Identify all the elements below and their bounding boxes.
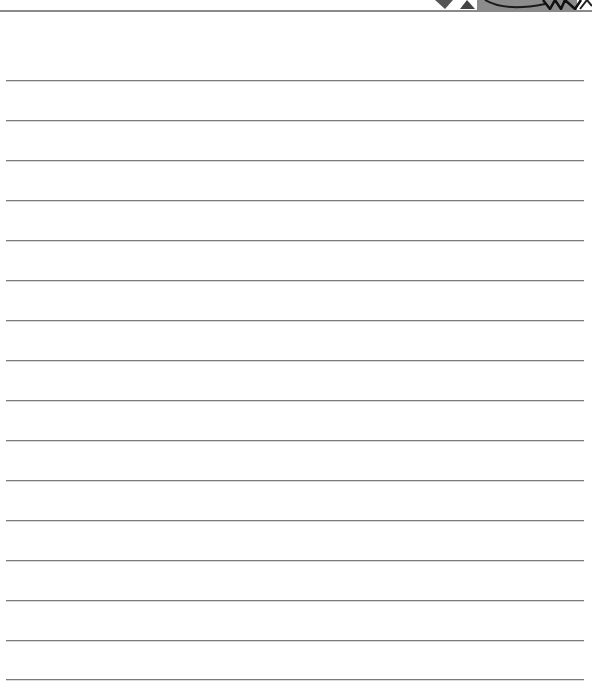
top-border-rule: [0, 10, 592, 12]
writing-line: [6, 400, 584, 401]
writing-line: [6, 560, 584, 561]
writing-line: [6, 640, 584, 641]
writing-line: [6, 520, 584, 521]
writing-line: [6, 160, 584, 161]
writing-line: [6, 280, 584, 281]
writing-line: [6, 679, 584, 680]
writing-line: [6, 240, 584, 241]
cartoon-illustration-icon: [415, 0, 592, 10]
writing-line: [6, 80, 584, 81]
writing-line: [6, 200, 584, 201]
writing-line: [6, 600, 584, 601]
writing-line: [6, 440, 584, 441]
writing-line: [6, 480, 584, 481]
writing-line: [6, 360, 584, 361]
writing-line: [6, 320, 584, 321]
writing-line: [6, 120, 584, 121]
